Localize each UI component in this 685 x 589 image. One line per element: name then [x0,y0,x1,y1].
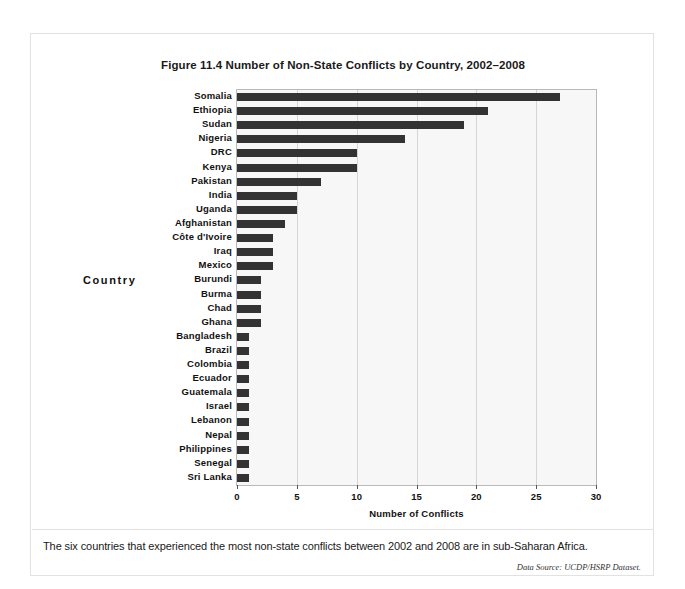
bar-row: Iraq [237,245,596,259]
y-axis-category-label: Ecuador [193,371,232,385]
bar-row: Guatemala [237,386,596,400]
x-axis-tick [536,485,537,489]
bar [237,164,357,172]
x-axis-tick [596,485,597,489]
y-axis-category-label: Israel [206,399,232,413]
bar-row: Ghana [237,316,596,330]
y-axis-title: Country [83,274,136,286]
figure-container: Figure 11.4 Number of Non-State Conflict… [30,33,654,576]
bar-row: Sudan [237,118,596,132]
bar-row: Philippines [237,443,596,457]
bar [237,460,249,468]
bar [237,291,261,299]
bar [237,418,249,426]
y-axis-category-label: Bangladesh [176,329,232,343]
figure-caption: The six countries that experienced the m… [43,540,643,552]
y-axis-category-label: Ethiopia [193,103,232,117]
bar [237,149,357,157]
figure-page: Figure 11.4 Number of Non-State Conflict… [0,0,685,589]
y-axis-category-label: Senegal [194,456,232,470]
x-axis-tick-label: 0 [234,491,239,502]
bar-row: Pakistan [237,175,596,189]
y-axis-category-label: Ghana [201,315,232,329]
bar-row: Israel [237,400,596,414]
y-axis-category-label: Afghanistan [175,216,232,230]
bar [237,93,560,101]
x-axis-tick [237,485,238,489]
bar-row: Côte d'Ivoire [237,231,596,245]
bar [237,135,405,143]
x-axis-tick-label: 5 [294,491,299,502]
bar [237,375,249,383]
y-axis-category-label: Lebanon [191,413,232,427]
bar-row: DRC [237,146,596,160]
bar-row: Mexico [237,259,596,273]
bar-row: Sri Lanka [237,471,596,485]
x-axis-tick-label: 30 [591,491,602,502]
x-axis-tick [476,485,477,489]
bar [237,178,321,186]
bar [237,121,464,129]
y-axis-category-label: Burma [201,287,232,301]
bar-row: Senegal [237,457,596,471]
x-axis-tick [297,485,298,489]
bar [237,474,249,482]
y-axis-category-label: Burundi [194,272,232,286]
bar [237,333,249,341]
bar-row: Nepal [237,429,596,443]
bar [237,432,249,440]
bar-row: Burundi [237,273,596,287]
y-axis-category-label: Côte d'Ivoire [172,230,232,244]
bar [237,276,261,284]
y-axis-category-label: Guatemala [182,385,232,399]
bar-row: Chad [237,302,596,316]
bar-row: Ethiopia [237,104,596,118]
bar-row: Afghanistan [237,217,596,231]
y-axis-category-label: Nigeria [198,131,232,145]
bar-row: Brazil [237,344,596,358]
bar-row: India [237,189,596,203]
y-axis-category-label: Sudan [202,117,232,131]
y-axis-category-label: Pakistan [191,174,232,188]
y-axis-category-label: Colombia [187,357,232,371]
bar [237,389,249,397]
caption-divider [32,529,654,530]
bar-row: Kenya [237,161,596,175]
y-axis-category-label: Sri Lanka [187,470,232,484]
bar [237,262,273,270]
y-axis-category-label: Brazil [205,343,232,357]
bar [237,361,249,369]
bar-row: Uganda [237,203,596,217]
bar-row: Somalia [237,90,596,104]
bar [237,220,285,228]
bar-row: Nigeria [237,132,596,146]
x-axis-tick-label: 10 [351,491,362,502]
bar-row: Ecuador [237,372,596,386]
bar-group: SomaliaEthiopiaSudanNigeriaDRCKenyaPakis… [237,90,596,485]
bar [237,107,488,115]
figure-title: Figure 11.4 Number of Non-State Conflict… [31,59,655,71]
bar [237,446,249,454]
x-axis-title: Number of Conflicts [237,508,596,519]
y-axis-category-label: Somalia [194,89,232,103]
y-axis-category-label: DRC [211,145,232,159]
x-axis-tick [417,485,418,489]
bar [237,347,249,355]
x-axis-tick [357,485,358,489]
y-axis-category-label: Uganda [196,202,232,216]
bar [237,305,261,313]
y-axis-category-label: Iraq [214,244,232,258]
bar-row: Burma [237,288,596,302]
y-axis-category-label: Nepal [205,428,232,442]
y-axis-category-label: Mexico [199,258,232,272]
y-axis-category-label: Philippines [179,442,232,456]
x-axis-tick-label: 25 [531,491,542,502]
y-axis-category-label: Kenya [202,160,232,174]
y-axis-category-label: India [209,188,232,202]
source-note: Data Source: UCDP/HSRP Dataset. [517,562,641,572]
y-axis-category-label: Chad [207,301,232,315]
bar [237,248,273,256]
bar-row: Colombia [237,358,596,372]
bar-row: Lebanon [237,414,596,428]
bar [237,234,273,242]
